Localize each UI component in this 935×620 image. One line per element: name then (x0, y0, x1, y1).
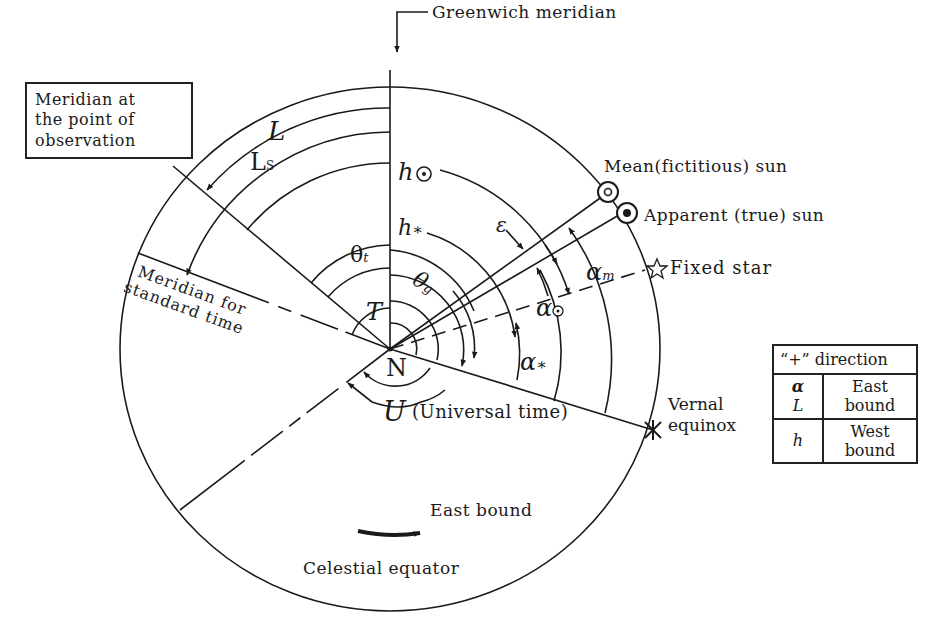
legend-direction-east-line1: East (828, 377, 912, 396)
east-bound-arrow (358, 531, 420, 535)
theta-t-label: θt (350, 244, 368, 266)
legend-row-west: h West bound (773, 419, 917, 463)
alpha-star-sub: ∗ (536, 355, 547, 374)
legend-direction-east-line2: bound (828, 396, 912, 415)
h-star-main: h (398, 215, 412, 240)
legend-direction-east: East bound (823, 374, 917, 418)
h-sun-label: h (398, 160, 413, 184)
east-bound-label: East bound (430, 502, 532, 519)
legend-direction-west: West bound (823, 419, 917, 463)
direction-legend: “+” direction α L East bound h West boun… (772, 344, 918, 464)
observer-meridian-label-line2: the point of (35, 110, 183, 130)
alpha-sun-label: α (536, 296, 552, 320)
legend-symbols-west: h (773, 419, 823, 463)
legend-header-row: “+” direction (773, 345, 917, 374)
legend-header: “+” direction (773, 345, 917, 374)
L-label: L (268, 118, 285, 144)
Ls-sub: S (266, 159, 274, 173)
T-label: T (366, 300, 382, 324)
fixed-star-symbol (647, 259, 667, 278)
theta-t-sub: t (363, 250, 368, 265)
alpha-m-label: αm (586, 260, 615, 284)
legend-symbol-L: L (778, 396, 818, 415)
Ls-label: LS (250, 150, 274, 174)
apparent-sun-symbol (617, 203, 637, 223)
greenwich-meridian-label: Greenwich meridian (432, 4, 617, 21)
apparent-sun-label: Apparent (true) sun (644, 207, 824, 224)
alpha-sun-symbol (553, 306, 563, 316)
center-N-label: N (386, 356, 407, 380)
U-label: U (383, 398, 406, 425)
legend-symbol-alpha: α (778, 377, 818, 396)
epsilon-arrow-2 (545, 245, 557, 264)
legend-row-east: α L East bound (773, 374, 917, 418)
legend-direction-west-line1: West (828, 422, 912, 441)
epsilon-label: ε (496, 215, 507, 235)
Ls-main: L (250, 148, 266, 176)
legend-symbol-h: h (778, 431, 818, 450)
center-point (388, 347, 393, 352)
h-star-label: h∗ (398, 217, 423, 239)
greenwich-callout (397, 12, 428, 52)
h-star-sub: ∗ (412, 220, 423, 239)
mean-sun-label: Mean(fictitious) sun (604, 158, 788, 175)
lower-meridian-line (180, 349, 390, 510)
alpha-sun-arc (540, 270, 561, 401)
alpha-m-arc (569, 228, 612, 413)
observer-meridian-label-line3: observation (35, 131, 183, 151)
alpha-m-sub: m (602, 268, 614, 283)
L-arc (207, 108, 390, 190)
epsilon-arrow-1 (506, 230, 523, 249)
theta-t-arc-inner (328, 268, 390, 297)
observer-meridian-box: Meridian at the point of observation (25, 82, 193, 159)
alpha-star-main: α (520, 348, 536, 376)
alpha-star-label: α∗ (520, 350, 547, 374)
h-sun-symbol (417, 167, 431, 181)
legend-direction-west-line2: bound (828, 441, 912, 460)
vernal-equinox-label-line2: equinox (668, 415, 736, 436)
mean-sun-symbol (598, 182, 618, 202)
fixed-star-label: Fixed star (670, 259, 772, 277)
vernal-equinox-label-line1: Vernal (668, 394, 736, 415)
theta-t-main: θ (350, 242, 363, 267)
legend-symbols-east: α L (773, 374, 823, 418)
universal-time-label: (Universal time) (412, 403, 568, 421)
alpha-m-main: α (586, 258, 602, 286)
vernal-equinox-label: Vernal equinox (668, 394, 736, 437)
celestial-equator-label: Celestial equator (303, 560, 459, 577)
observer-meridian-label-line1: Meridian at (35, 90, 183, 110)
